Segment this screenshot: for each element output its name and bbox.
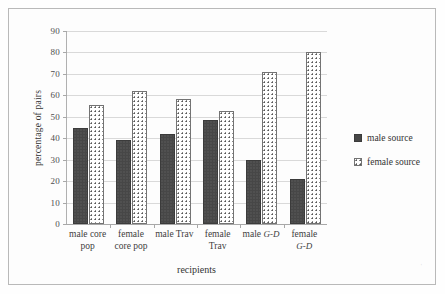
x-axis-title: recipients: [66, 264, 327, 275]
bar-male-source: [290, 179, 305, 224]
x-label-line1: female: [196, 228, 239, 240]
y-tick-label-80: 80: [51, 47, 60, 57]
legend-item-female-source: female source: [354, 157, 444, 167]
x-label-line2: G-D: [283, 240, 326, 252]
scan-artifact: ˌ: [420, 256, 424, 276]
bar-group: [67, 31, 110, 224]
bar-male-source: [73, 128, 88, 225]
x-axis-tick-labels: male corepopfemalecore popmale Travfemal…: [66, 228, 327, 266]
bar-female-source: [219, 111, 234, 224]
x-label-line1: female: [109, 228, 152, 240]
x-label-line1: female: [283, 228, 326, 240]
legend-label-male-source: male source: [367, 133, 413, 143]
legend-item-male-source: male source: [354, 133, 444, 143]
y-tick-label-0: 0: [55, 219, 60, 229]
x-label-0: male corepop: [66, 228, 109, 252]
bar-female-source: [176, 99, 191, 224]
x-label-italic: G-D: [263, 229, 279, 239]
x-label-line2: pop: [66, 240, 109, 252]
y-tick-label-10: 10: [51, 198, 60, 208]
legend-swatch-female-icon: [354, 158, 362, 166]
x-label-1: femalecore pop: [109, 228, 152, 252]
x-label-line1: male G-D: [239, 228, 282, 240]
bar-series-container: [67, 31, 327, 224]
bar-male-source: [203, 120, 218, 224]
y-axis-title-label: percentage of pairs: [33, 89, 43, 165]
x-label-italic: G-D: [296, 241, 312, 251]
legend-label-female-source: female source: [367, 157, 420, 167]
x-label-4: male G-D: [239, 228, 282, 240]
bar-female-source: [89, 105, 104, 224]
y-tick-label-50: 50: [51, 112, 60, 122]
bar-male-source: [246, 160, 261, 224]
y-tick-label-60: 60: [51, 90, 60, 100]
x-label-line1: male Trav: [153, 228, 196, 240]
x-label-5: femaleG-D: [283, 228, 326, 252]
figure-container: percentage of pairs 0102030405060708090 …: [0, 0, 445, 294]
y-tick-label-30: 30: [51, 155, 60, 165]
bar-female-source: [306, 52, 321, 224]
bar-female-source: [132, 91, 147, 224]
bar-male-source: [160, 134, 175, 224]
bar-female-source: [262, 72, 277, 224]
y-tick-label-20: 20: [51, 176, 60, 186]
x-label-2: male Trav: [153, 228, 196, 240]
y-tick-label-40: 40: [51, 133, 60, 143]
x-label-line1: male core: [66, 228, 109, 240]
x-label-3: femaleTrav: [196, 228, 239, 252]
bar-male-source: [116, 140, 131, 224]
legend: male source female source: [354, 133, 444, 181]
plot-area: 0102030405060708090: [66, 31, 327, 224]
bar-group: [197, 31, 240, 224]
figure-frame: percentage of pairs 0102030405060708090 …: [8, 8, 436, 285]
y-tick-label-70: 70: [51, 69, 60, 79]
y-tick-0: [63, 224, 67, 225]
x-label-line2: core pop: [109, 240, 152, 252]
legend-swatch-male-icon: [354, 134, 362, 142]
y-axis-title: percentage of pairs: [31, 31, 45, 224]
bar-group: [110, 31, 153, 224]
y-tick-label-90: 90: [51, 26, 60, 36]
bar-group: [284, 31, 327, 224]
bar-group: [154, 31, 197, 224]
x-label-line2: Trav: [196, 240, 239, 252]
bar-group: [240, 31, 283, 224]
